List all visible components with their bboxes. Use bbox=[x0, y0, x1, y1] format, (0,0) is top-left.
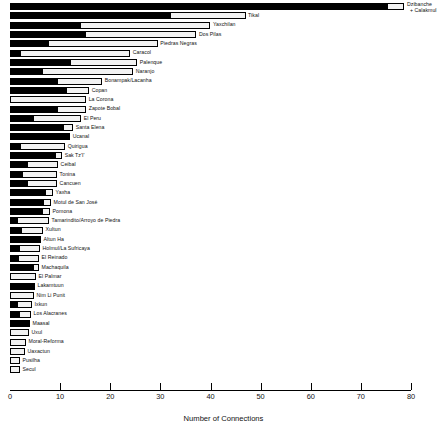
stacked-bar[interactable] bbox=[10, 143, 65, 150]
stacked-bar[interactable] bbox=[10, 339, 26, 346]
bar-segment-white bbox=[43, 199, 51, 206]
bar-label: Santa Elena bbox=[76, 123, 105, 132]
stacked-bar[interactable] bbox=[10, 189, 53, 196]
x-tick-label: 70 bbox=[357, 392, 365, 401]
stacked-bar[interactable] bbox=[10, 78, 102, 85]
bar-segment-black bbox=[10, 152, 55, 159]
stacked-bar[interactable] bbox=[10, 311, 31, 318]
bar-segment-white bbox=[17, 301, 32, 308]
plot-area: Dzibanche+ CalakmulTikalYaxchilanDos Pil… bbox=[0, 0, 447, 396]
stacked-bar[interactable] bbox=[10, 22, 210, 29]
x-tick bbox=[411, 383, 412, 390]
stacked-bar[interactable] bbox=[10, 68, 133, 75]
stacked-bar[interactable] bbox=[10, 236, 41, 243]
stacked-bar[interactable] bbox=[10, 115, 81, 122]
bar-segment-white bbox=[10, 292, 34, 299]
stacked-bar[interactable] bbox=[10, 264, 39, 271]
stacked-bar[interactable] bbox=[10, 301, 32, 308]
bar-label: Machaquila bbox=[42, 263, 69, 272]
x-tick bbox=[361, 383, 362, 390]
stacked-bar[interactable] bbox=[10, 273, 36, 280]
bar-segment-black bbox=[10, 124, 63, 131]
stacked-bar[interactable] bbox=[10, 50, 130, 57]
stacked-bar[interactable] bbox=[10, 227, 43, 234]
bar-segment-white bbox=[18, 255, 39, 262]
bar-label: Quirigua bbox=[68, 142, 88, 151]
bar-label: Ixkun bbox=[35, 300, 48, 309]
stacked-bar[interactable] bbox=[10, 199, 51, 206]
stacked-bar[interactable] bbox=[10, 161, 58, 168]
x-tick-label: 20 bbox=[106, 392, 114, 401]
bar-segment-black bbox=[10, 217, 17, 224]
bar-segment-white bbox=[48, 40, 158, 47]
bar-segment-black bbox=[10, 59, 70, 66]
bar-segment-black bbox=[10, 31, 85, 38]
stacked-bar[interactable] bbox=[10, 12, 246, 19]
stacked-bar[interactable] bbox=[10, 283, 35, 290]
stacked-bar[interactable] bbox=[10, 59, 137, 66]
bar-segment-white bbox=[27, 180, 57, 187]
bar-label: Pomona bbox=[53, 207, 73, 216]
bar-label: Uaxactun bbox=[28, 347, 50, 356]
stacked-bar[interactable] bbox=[10, 357, 20, 364]
stacked-bar[interactable] bbox=[10, 366, 20, 373]
bar-segment-white bbox=[57, 106, 86, 113]
connections-bar-chart: Dzibanche+ CalakmulTikalYaxchilanDos Pil… bbox=[0, 0, 447, 434]
stacked-bar[interactable] bbox=[10, 217, 49, 224]
bar-label: Sak Tz'I' bbox=[65, 151, 85, 160]
bar-label: Copan bbox=[92, 86, 108, 95]
stacked-bar[interactable] bbox=[10, 133, 70, 140]
stacked-bar[interactable] bbox=[10, 348, 25, 355]
bar-segment-black bbox=[10, 68, 42, 75]
stacked-bar[interactable] bbox=[10, 245, 40, 252]
stacked-bar[interactable] bbox=[10, 96, 86, 103]
x-axis-line bbox=[10, 390, 411, 391]
bar-segment-black bbox=[10, 180, 27, 187]
bar-segment-white bbox=[45, 189, 53, 196]
x-tick-label: 60 bbox=[307, 392, 315, 401]
stacked-bar[interactable] bbox=[10, 255, 39, 262]
bar-label: Palenque bbox=[140, 58, 162, 67]
bar-segment-black bbox=[10, 301, 17, 308]
bar-segment-black bbox=[10, 161, 27, 168]
bar-segment-black bbox=[10, 264, 33, 271]
bar-label: El Peru bbox=[84, 114, 101, 123]
bar-segment-black bbox=[10, 227, 21, 234]
bar-segment-white bbox=[19, 311, 31, 318]
bar-segment-black bbox=[10, 311, 19, 318]
stacked-bar[interactable] bbox=[10, 208, 50, 215]
stacked-bar[interactable] bbox=[10, 292, 34, 299]
stacked-bar[interactable] bbox=[10, 124, 73, 131]
bar-label: Dzibanche+ Calakmul bbox=[407, 1, 437, 13]
bar-segment-white bbox=[66, 87, 89, 94]
stacked-bar[interactable] bbox=[10, 31, 196, 38]
x-tick bbox=[211, 383, 212, 390]
bar-segment-white bbox=[10, 273, 36, 280]
stacked-bar[interactable] bbox=[10, 40, 158, 47]
bar-label: Tonina bbox=[60, 170, 76, 179]
bar-label: Bonampak/Lacanha bbox=[105, 76, 152, 85]
bar-segment-black bbox=[10, 87, 66, 94]
bar-label-line2: + Calakmul bbox=[410, 7, 437, 13]
bar-label: Cancuen bbox=[60, 179, 81, 188]
bar-segment-black bbox=[10, 245, 19, 252]
stacked-bar[interactable] bbox=[10, 171, 57, 178]
bar-segment-black bbox=[10, 40, 48, 47]
stacked-bar[interactable] bbox=[10, 329, 29, 336]
bar-segment-black bbox=[10, 255, 18, 262]
bar-segment-black bbox=[10, 189, 45, 196]
bar-segment-black bbox=[10, 208, 42, 215]
bar-segment-black bbox=[10, 3, 387, 10]
bar-label: Nim Li Punit bbox=[37, 291, 66, 300]
stacked-bar[interactable] bbox=[10, 87, 89, 94]
stacked-bar[interactable] bbox=[10, 3, 404, 10]
bar-label: El Reinado bbox=[42, 253, 68, 262]
stacked-bar[interactable] bbox=[10, 106, 86, 113]
stacked-bar[interactable] bbox=[10, 152, 62, 159]
bar-label: Yaxha bbox=[56, 188, 71, 197]
bar-segment-white bbox=[33, 264, 39, 271]
stacked-bar[interactable] bbox=[10, 320, 30, 327]
bar-segment-black bbox=[10, 171, 22, 178]
stacked-bar[interactable] bbox=[10, 180, 57, 187]
bar-segment-black bbox=[10, 320, 30, 327]
